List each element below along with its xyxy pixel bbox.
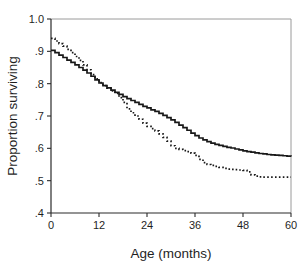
y-tick-label: .9 <box>35 45 44 57</box>
data-series-group <box>51 38 291 177</box>
x-tick-label: 60 <box>285 219 297 231</box>
x-tick-label-group: 01224364860 <box>48 219 297 231</box>
y-tick-label-group: .4.5.6.7.8.91.0 <box>29 13 44 219</box>
y-tick-label: .7 <box>35 110 44 122</box>
y-tick-label: .5 <box>35 175 44 187</box>
survival-chart-figure: .4.5.6.7.8.91.0 01224364860 Age (months)… <box>0 0 307 270</box>
y-axis-title: Proportion surviving <box>5 56 20 175</box>
y-tick-label: 1.0 <box>29 13 44 25</box>
x-axis: 01224364860 <box>48 213 297 231</box>
x-tick-group <box>51 213 291 217</box>
y-tick-label: .8 <box>35 78 44 90</box>
y-axis: .4.5.6.7.8.91.0 <box>29 13 51 219</box>
x-tick-label: 36 <box>189 219 201 231</box>
x-tick-label: 24 <box>141 219 153 231</box>
x-tick-label: 0 <box>48 219 54 231</box>
x-tick-label: 12 <box>93 219 105 231</box>
y-tick-label: .6 <box>35 142 44 154</box>
dotted-survival-curve <box>51 38 291 177</box>
chart-canvas: .4.5.6.7.8.91.0 01224364860 Age (months)… <box>0 0 307 270</box>
x-tick-label: 48 <box>237 219 249 231</box>
y-tick-label: .4 <box>35 207 44 219</box>
plot-frame <box>51 19 291 213</box>
x-axis-title: Age (months) <box>130 246 211 261</box>
